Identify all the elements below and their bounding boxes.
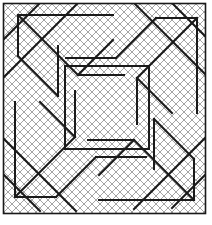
knot-pattern-figure [0, 0, 212, 225]
pattern-canvas [0, 0, 212, 225]
